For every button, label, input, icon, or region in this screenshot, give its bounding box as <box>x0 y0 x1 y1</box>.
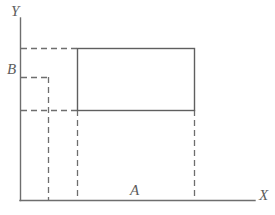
main-rectangle <box>78 49 195 111</box>
figure-canvas: Y X B A <box>0 0 275 215</box>
shape-group <box>78 49 195 111</box>
axes-group <box>20 18 255 201</box>
y-axis-label: Y <box>11 4 19 19</box>
height-marker-label: B <box>7 62 16 77</box>
width-marker-label: A <box>130 183 139 198</box>
dashed-guides-group <box>21 49 195 201</box>
x-axis-label: X <box>259 188 268 203</box>
